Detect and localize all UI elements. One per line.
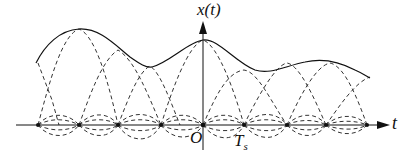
origin-label: O bbox=[190, 128, 202, 148]
sinc-pulses bbox=[38, 29, 370, 139]
t-axis-arrow-icon bbox=[377, 121, 390, 129]
y-axis-arrow-icon bbox=[199, 21, 207, 34]
reconstruction-diagram bbox=[0, 0, 420, 158]
y-axis-label: x(t) bbox=[197, 0, 221, 20]
x-axis-label: t bbox=[392, 113, 397, 134]
sampling-period-label: Ts bbox=[234, 131, 248, 152]
period-label-subscript: s bbox=[243, 140, 247, 152]
